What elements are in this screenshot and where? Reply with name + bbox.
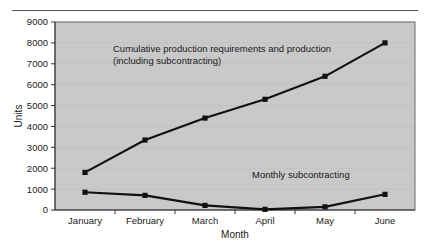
series-marker-1 — [82, 190, 87, 195]
series-marker-1 — [202, 203, 207, 208]
series-marker-0 — [382, 40, 387, 45]
y-axis-tick-label: 5000 — [27, 100, 48, 111]
y-axis-tick-label: 7000 — [27, 58, 48, 69]
series-marker-1 — [322, 204, 327, 209]
series-marker-0 — [262, 97, 267, 102]
y-axis-tick-label: 1000 — [27, 184, 48, 195]
x-axis-tick-label: April — [255, 215, 274, 226]
series-marker-0 — [322, 74, 327, 79]
y-axis-tick-label: 3000 — [27, 142, 48, 153]
line-chart: 0100020003000400050006000700080009000 Ja… — [0, 0, 430, 249]
y-axis-title: Units — [13, 105, 24, 128]
series-marker-1 — [262, 207, 267, 212]
series-marker-0 — [202, 115, 207, 120]
chart-figure: 0100020003000400050006000700080009000 Ja… — [0, 0, 430, 249]
subcontracting-annotation-line1: Monthly subcontracting — [252, 169, 350, 180]
x-axis-title: Month — [221, 229, 249, 240]
series-marker-0 — [82, 170, 87, 175]
x-axis-tick-label: January — [68, 215, 102, 226]
series-marker-0 — [142, 137, 147, 142]
y-axis-tick-label: 0 — [43, 204, 48, 215]
y-axis-tick-label: 9000 — [27, 16, 48, 27]
series-marker-1 — [382, 192, 387, 197]
x-axis-tick-label: June — [375, 215, 396, 226]
x-axis-ticks-group: JanuaryFebruaryMarchAprilMayJune — [68, 210, 395, 226]
x-axis-tick-label: March — [192, 215, 218, 226]
y-axis-tick-label: 4000 — [27, 121, 48, 132]
y-axis-tick-label: 8000 — [27, 37, 48, 48]
y-axis-ticks-group: 0100020003000400050006000700080009000 — [27, 16, 55, 215]
cumulative-annotation-line2: (including subcontracting) — [113, 55, 221, 66]
cumulative-annotation-line1: Cumulative production requirements and p… — [113, 43, 331, 54]
series-marker-1 — [142, 193, 147, 198]
y-axis-tick-label: 6000 — [27, 79, 48, 90]
y-axis-tick-label: 2000 — [27, 163, 48, 174]
x-axis-tick-label: February — [126, 215, 164, 226]
x-axis-tick-label: May — [316, 215, 334, 226]
